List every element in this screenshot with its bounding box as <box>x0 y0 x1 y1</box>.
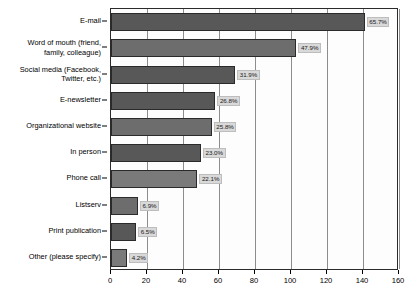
x-axis-tick <box>398 270 399 274</box>
y-axis-tick <box>102 178 107 179</box>
bar-value-label: 4.2% <box>129 253 148 263</box>
x-axis-tick-label: 0 <box>108 276 112 285</box>
gridline <box>363 9 364 269</box>
bar <box>111 223 136 241</box>
plot-area: 65.7%47.9%31.9%26.8%25.8%23.0%22.1%6.9%6… <box>110 8 398 270</box>
x-axis-tick-label: 20 <box>142 276 150 285</box>
bar-value-label: 6.5% <box>138 227 157 237</box>
bar-value-label: 25.8% <box>214 122 237 132</box>
x-axis-tick-label: 40 <box>178 276 186 285</box>
y-axis-label: Listserv <box>0 200 101 209</box>
bar <box>111 92 215 110</box>
bar <box>111 13 365 31</box>
bar-value-label: 6.9% <box>140 201 159 211</box>
bar-value-label: 47.9% <box>298 43 321 53</box>
y-axis-tick <box>102 204 107 205</box>
y-axis-label: Other (please specify) <box>0 252 101 261</box>
bar <box>111 39 296 57</box>
y-axis-label: Word of mouth (friend, family, colleague… <box>0 38 101 56</box>
bar-value-label: 26.8% <box>217 96 240 106</box>
x-axis-tick-label: 140 <box>356 276 369 285</box>
x-axis-tick-label: 80 <box>250 276 258 285</box>
x-axis-tick <box>326 270 327 274</box>
y-axis-label: Social media (Facebook, Twitter, etc.) <box>0 64 101 82</box>
bar <box>111 170 197 188</box>
x-axis-tick-label: 100 <box>284 276 297 285</box>
x-axis-tick <box>110 270 111 274</box>
y-axis-tick <box>102 47 107 48</box>
x-axis: 020406080100120140160 <box>110 270 398 297</box>
x-axis-tick-label: 60 <box>214 276 222 285</box>
x-axis-tick-label: 160 <box>392 276 405 285</box>
y-axis-tick <box>102 152 107 153</box>
y-axis-tick <box>102 125 107 126</box>
bar-value-label: 23.0% <box>203 148 226 158</box>
x-axis-tick <box>218 270 219 274</box>
x-axis-tick <box>362 270 363 274</box>
y-axis-label: E-mail <box>0 16 101 25</box>
y-axis-label: E-newsletter <box>0 95 101 104</box>
bar <box>111 197 138 215</box>
gridline <box>327 9 328 269</box>
gridline <box>399 9 400 269</box>
y-axis-tick <box>102 99 107 100</box>
y-axis-tick <box>102 230 107 231</box>
bar-value-label: 65.7% <box>367 17 390 27</box>
x-axis-tick <box>254 270 255 274</box>
y-axis-label: Phone call <box>0 174 101 183</box>
bar-value-label: 22.1% <box>199 174 222 184</box>
y-axis-tick <box>102 256 107 257</box>
y-axis-tick <box>102 73 107 74</box>
bar <box>111 249 127 267</box>
bar <box>111 66 235 84</box>
bar-chart: E-mailWord of mouth (friend, family, col… <box>0 0 407 297</box>
y-axis-category-labels: E-mailWord of mouth (friend, family, col… <box>0 0 107 297</box>
x-axis-tick-label: 120 <box>320 276 333 285</box>
bar <box>111 144 201 162</box>
y-axis-label: Organizational website <box>0 121 101 130</box>
y-axis-label: In person <box>0 147 101 156</box>
y-axis-label: Print publication <box>0 226 101 235</box>
x-axis-tick <box>182 270 183 274</box>
x-axis-tick <box>290 270 291 274</box>
bar <box>111 118 212 136</box>
bar-value-label: 31.9% <box>237 70 260 80</box>
x-axis-tick <box>146 270 147 274</box>
y-axis-tick <box>102 21 107 22</box>
